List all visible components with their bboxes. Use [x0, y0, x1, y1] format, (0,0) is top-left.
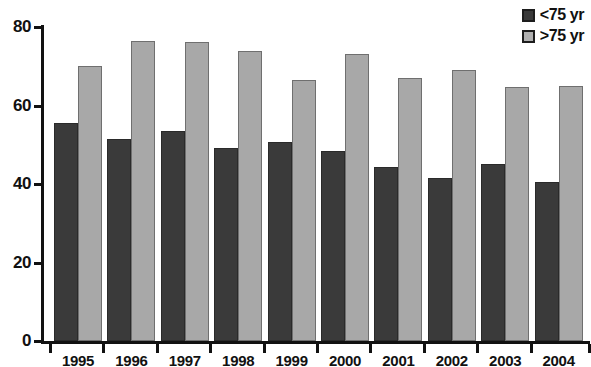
bar-1998-over-75: [238, 51, 262, 341]
legend-label-under-75: <75 yr: [540, 6, 584, 24]
bar-1998-under-75: [214, 148, 238, 342]
x-axis-tick-label: 2003: [477, 352, 533, 367]
bar-2004-under-75: [535, 182, 559, 341]
legend-item-under-75: <75 yr: [522, 6, 584, 24]
x-axis-tick-label: 2000: [317, 352, 373, 367]
bar-1996-over-75: [131, 41, 155, 341]
bar-2004-over-75: [559, 86, 583, 341]
y-axis-tick-label: 60: [0, 96, 31, 116]
legend-swatch-icon-under-75: [522, 9, 535, 22]
x-axis-tick-label: 1995: [50, 352, 106, 367]
x-axis-tick-label: 1998: [210, 352, 266, 367]
bar-2003-over-75: [505, 87, 529, 341]
x-axis-tick: [476, 344, 479, 353]
x-axis-tick: [369, 344, 372, 353]
x-axis-tick-label: 2004: [531, 352, 587, 367]
bar-1996-under-75: [107, 139, 131, 341]
plot-area: [41, 27, 590, 341]
bar-2001-over-75: [398, 78, 422, 341]
bar-1999-under-75: [268, 142, 292, 341]
legend-swatch-icon-over-75: [522, 30, 535, 43]
x-axis-tick: [102, 344, 105, 353]
y-axis-tick-label: 80: [0, 17, 31, 37]
x-axis-tick-label: 1999: [264, 352, 320, 367]
x-axis-tick: [588, 344, 591, 353]
legend: <75 yr >75 yr: [522, 6, 584, 45]
y-axis-tick-label: 20: [0, 253, 31, 273]
x-axis-tick: [423, 344, 426, 353]
x-axis-tick: [530, 344, 533, 353]
y-axis-tick-label: 40: [0, 174, 31, 194]
legend-label-over-75: >75 yr: [540, 27, 584, 45]
y-axis-tick-label: 0: [0, 331, 31, 351]
bar-2002-over-75: [452, 70, 476, 341]
bar-1997-under-75: [161, 131, 185, 341]
x-axis-tick: [209, 344, 212, 353]
x-axis-tick-label: 2002: [424, 352, 480, 367]
x-axis-tick: [156, 344, 159, 353]
bar-2003-under-75: [481, 164, 505, 341]
x-axis-tick: [316, 344, 319, 353]
x-axis-tick-label: 1996: [103, 352, 159, 367]
bar-2000-under-75: [321, 151, 345, 341]
bar-1995-over-75: [78, 66, 102, 341]
x-axis-tick: [49, 344, 52, 353]
x-axis-tick-label: 1997: [157, 352, 213, 367]
x-axis-tick-label: 2001: [370, 352, 426, 367]
bar-1997-over-75: [185, 42, 209, 341]
bar-2002-under-75: [428, 178, 452, 341]
bar-1995-under-75: [54, 123, 78, 341]
bar-2001-under-75: [374, 167, 398, 341]
bar-1999-over-75: [292, 80, 316, 341]
legend-item-over-75: >75 yr: [522, 27, 584, 45]
x-axis-tick: [263, 344, 266, 353]
bar-2000-over-75: [345, 54, 369, 341]
